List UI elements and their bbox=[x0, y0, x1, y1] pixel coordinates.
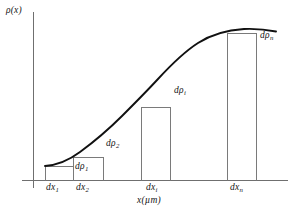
density-riemann-sum-figure: ρ(x) x(µm) dρ1 dρ2 dρi dρn dx1 dx2 dxi d… bbox=[0, 0, 308, 215]
height-label-drhoi-sub: i bbox=[184, 89, 186, 96]
rect-dx1 bbox=[46, 166, 74, 181]
width-label-dxn-sub: n bbox=[240, 186, 244, 193]
height-label-drhon-base: dρ bbox=[260, 30, 270, 40]
width-label-dx1: dx1 bbox=[46, 183, 59, 193]
width-label-dxi-sub: i bbox=[156, 186, 158, 193]
height-label-drhoi-base: dρ bbox=[174, 85, 184, 95]
width-label-dx2: dx2 bbox=[76, 183, 89, 193]
width-label-dx2-base: dx bbox=[76, 182, 85, 192]
height-label-drho1-sub: 1 bbox=[85, 165, 89, 172]
width-label-dxi-base: dx bbox=[146, 182, 155, 192]
height-label-drho1: dρ1 bbox=[75, 162, 88, 172]
width-label-dxn: dxn bbox=[230, 183, 243, 193]
density-curve bbox=[45, 29, 276, 166]
rect-dxn bbox=[228, 33, 257, 181]
height-label-drho2-sub: 2 bbox=[116, 142, 120, 149]
height-label-drho2: dρ2 bbox=[106, 139, 119, 149]
height-label-drhoi: dρi bbox=[174, 86, 186, 96]
rect-dxi bbox=[142, 107, 171, 181]
x-axis-label: x(µm) bbox=[137, 196, 161, 206]
width-label-dx2-sub: 2 bbox=[86, 186, 90, 193]
y-axis-label: ρ(x) bbox=[6, 6, 22, 16]
width-label-dxi: dxi bbox=[146, 183, 157, 193]
height-label-drhon-sub: n bbox=[270, 34, 274, 41]
height-label-drhon: dρn bbox=[260, 31, 273, 41]
height-label-drho2-base: dρ bbox=[106, 138, 116, 148]
width-label-dxn-base: dx bbox=[230, 182, 239, 192]
width-label-dx1-base: dx bbox=[46, 182, 55, 192]
width-label-dx1-sub: 1 bbox=[56, 186, 60, 193]
height-label-drho1-base: dρ bbox=[75, 161, 85, 171]
